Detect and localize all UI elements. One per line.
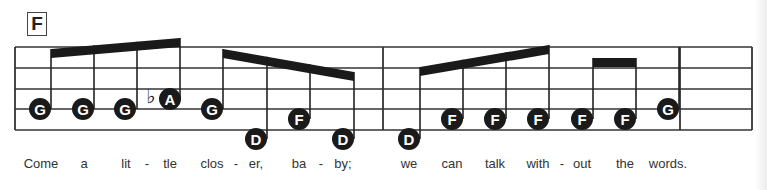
note-label: G bbox=[77, 101, 89, 118]
lyric-syllable: we bbox=[401, 156, 418, 171]
lyric-syllable: a bbox=[80, 156, 87, 171]
note-label: A bbox=[165, 91, 176, 108]
beam bbox=[420, 45, 549, 76]
beam bbox=[593, 58, 636, 67]
lyric-syllable: er, bbox=[249, 156, 263, 171]
lyric-syllable: ba bbox=[292, 156, 306, 171]
note-label: G bbox=[206, 101, 218, 118]
note-label: D bbox=[404, 131, 415, 148]
lyric-syllable: talk bbox=[485, 156, 505, 171]
lyric-syllable: by; bbox=[334, 156, 351, 171]
flat-icon: ♭ bbox=[146, 84, 155, 108]
lyric-syllable: clos bbox=[200, 156, 223, 171]
lyric-syllable: tle bbox=[163, 156, 177, 171]
lyric-syllable: lit bbox=[121, 156, 130, 171]
note-label: F bbox=[533, 111, 542, 128]
lyric-syllable: the bbox=[616, 156, 634, 171]
note-label: G bbox=[34, 101, 46, 118]
lyric-syllable: can bbox=[442, 156, 463, 171]
note-label: D bbox=[338, 131, 349, 148]
note-label: D bbox=[251, 131, 262, 148]
lyric-syllable: words. bbox=[649, 156, 687, 171]
lyric-hyphen: - bbox=[234, 156, 238, 171]
lyric-syllable: Come bbox=[24, 156, 59, 171]
lyric-syllable: with bbox=[526, 156, 549, 171]
note-label: G bbox=[119, 101, 131, 118]
note-label: F bbox=[577, 111, 586, 128]
note-label: F bbox=[447, 111, 456, 128]
page-edge bbox=[755, 0, 767, 190]
lyric-hyphen: - bbox=[145, 156, 149, 171]
note-label: F bbox=[294, 111, 303, 128]
beam bbox=[51, 38, 180, 58]
note-label: F bbox=[620, 111, 629, 128]
lyric-syllable: out bbox=[573, 156, 591, 171]
note-label: G bbox=[662, 101, 674, 118]
note-label: F bbox=[490, 111, 499, 128]
lyric-hyphen: - bbox=[319, 156, 323, 171]
beam bbox=[223, 49, 354, 81]
lyric-hyphen: - bbox=[560, 156, 564, 171]
